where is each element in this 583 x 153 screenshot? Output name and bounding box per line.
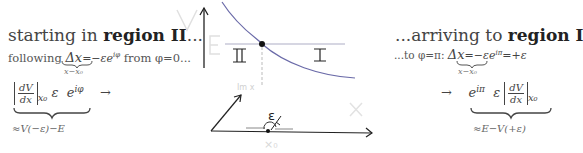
epsilon-tick: [276, 122, 280, 125]
region-I-label: [314, 49, 326, 61]
left-small-underbrace: [62, 61, 92, 68]
right-small-underbrace: [457, 61, 487, 68]
left-big-underbrace: [14, 108, 90, 118]
region-II-label: [233, 49, 246, 62]
imag-axis-label: Im x: [237, 83, 255, 92]
x0-label: ×₀: [264, 138, 278, 151]
potential-curve: [222, 2, 355, 78]
epsilon-diagram-label: ε: [268, 108, 275, 123]
imag-axis: [211, 95, 241, 131]
real-axis: [211, 131, 372, 133]
turning-point-dot: [259, 41, 265, 47]
energy-label: [210, 36, 220, 54]
right-big-underbrace: [471, 108, 551, 118]
x-axis-label: [350, 103, 362, 116]
v-axis-label: [177, 10, 197, 30]
x0-dot: [266, 129, 270, 133]
